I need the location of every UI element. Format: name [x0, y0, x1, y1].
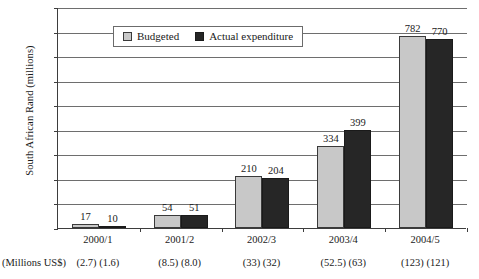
bar-group: 334399: [303, 7, 385, 228]
x-axis-label: 2003/4: [302, 234, 384, 245]
usd-value-pair: (52.5) (63): [302, 257, 384, 268]
bar-actual: [426, 39, 453, 228]
usd-value-pair: (123) (121): [384, 257, 466, 268]
usd-value-pair: (8.5) (8.0): [139, 257, 221, 268]
bar-actual: [262, 178, 289, 228]
legend-swatch-actual-icon: [195, 32, 204, 41]
bar-group: 782770: [385, 7, 467, 228]
bar-actual: [344, 130, 371, 228]
bar-actual: [99, 226, 126, 228]
x-axis-label: 2004/5: [384, 234, 466, 245]
x-tick-mark: [140, 228, 141, 232]
legend-swatch-budgeted-icon: [123, 32, 132, 41]
x-tick-mark: [303, 228, 304, 232]
bar-budgeted: [154, 215, 181, 228]
bar-value-label: 51: [174, 202, 215, 213]
legend-label-actual-expenditure: Actual expenditure: [209, 30, 293, 42]
usd-value-pair: (2.7) (1.6): [57, 257, 139, 268]
bar-value-label: 770: [419, 26, 460, 37]
bar-budgeted: [72, 224, 99, 228]
bar-actual: [181, 215, 208, 228]
legend-label-budgeted: Budgeted: [137, 30, 179, 42]
bar-budgeted: [317, 146, 344, 228]
y-axis-title: South African Rand (millions): [24, 16, 35, 206]
x-axis-label: 2001/2: [139, 234, 221, 245]
usd-value-pair: (33) (32): [221, 257, 303, 268]
legend-entry-budgeted: Budgeted: [123, 30, 179, 42]
x-tick-mark: [385, 228, 386, 232]
x-tick-mark: [222, 228, 223, 232]
y-tick-mark: [54, 229, 58, 230]
bar-budgeted: [235, 176, 262, 228]
bar-chart: South African Rand (millions) 0100200300…: [0, 0, 479, 279]
chart-legend: Budgeted Actual expenditure: [113, 26, 303, 47]
bar-value-label: 204: [255, 165, 296, 176]
bar-budgeted: [399, 36, 426, 228]
x-tick-mark: [467, 228, 468, 232]
bar-value-label: 399: [337, 117, 378, 128]
legend-entry-actual-expenditure: Actual expenditure: [195, 30, 293, 42]
x-axis-label: 2000/1: [57, 234, 139, 245]
bar-value-label: 10: [92, 213, 133, 224]
x-axis-label: 2002/3: [221, 234, 303, 245]
